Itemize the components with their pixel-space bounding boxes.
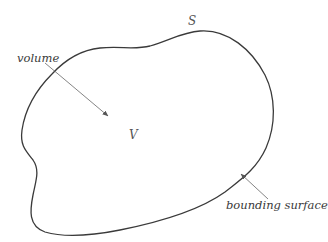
volume-symbol-label: V xyxy=(129,129,138,141)
bounding-surface-pointer-arrow xyxy=(241,174,268,199)
surface-symbol-label: S xyxy=(188,15,196,27)
volume-pointer-arrow xyxy=(45,63,108,116)
bounding-surface-label: bounding surface xyxy=(226,200,328,212)
volume-label: volume xyxy=(17,53,59,65)
